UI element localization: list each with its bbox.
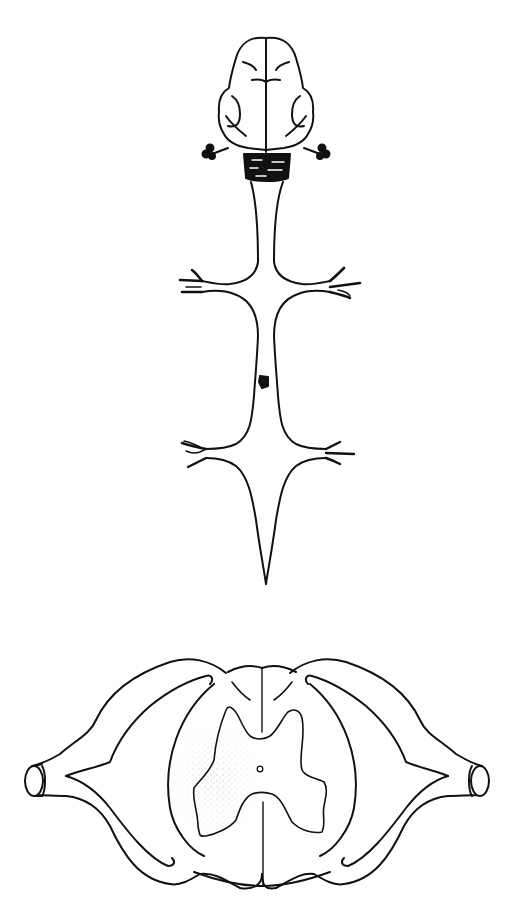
nerve-roots-lumbar-right [326,442,354,464]
cord-lateral-right [310,684,356,856]
cross-section [25,659,489,888]
brain [219,38,314,152]
nerve-roots-cervical-right [330,268,360,298]
brainstem [244,154,290,181]
cranial-nerve-left [203,145,229,160]
diagram-canvas [0,0,512,907]
lesion [259,376,268,388]
nerve-roots-lumbar-left [182,441,206,467]
dorsal-view [180,38,360,584]
nerve-root-cut-right [471,766,489,796]
nerve-roots-cervical-left [180,270,202,292]
nerve-root-right [262,659,489,888]
nerve-root-cut-left [25,766,43,796]
cranial-nerve-right [304,145,330,160]
